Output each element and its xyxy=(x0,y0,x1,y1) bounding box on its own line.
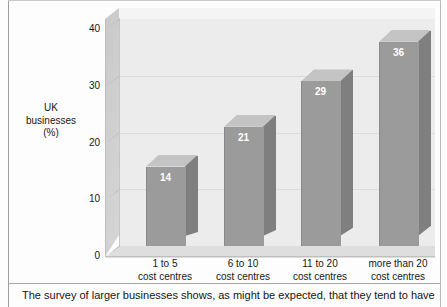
bar: 29 xyxy=(301,0,340,283)
bar-side-face xyxy=(418,31,431,236)
bar: 21 xyxy=(224,0,263,283)
x-axis-labels: 1 to 5cost centres6 to 10cost centres11 … xyxy=(0,258,447,284)
bar-value-label: 36 xyxy=(379,48,418,58)
bar-chart-figure: 403020100 UKbusinesses(%) 14212936 1 to … xyxy=(0,0,447,283)
bar-front-face xyxy=(224,127,264,246)
x-axis-category-label: 1 to 5cost centres xyxy=(122,258,208,283)
x-axis-category-line: cost centres xyxy=(277,271,363,284)
bar-value-label: 29 xyxy=(301,87,340,97)
x-axis-category-label: 6 to 10cost centres xyxy=(200,258,286,283)
x-axis-category-line: 1 to 5 xyxy=(122,258,208,271)
x-axis-category-line: cost centres xyxy=(200,271,286,284)
x-axis-category-line: cost centres xyxy=(355,271,441,284)
bar-side-face xyxy=(340,70,353,236)
x-axis-category-label: more than 20cost centres xyxy=(355,258,441,283)
x-axis-category-line: 11 to 20 xyxy=(277,258,363,271)
bar: 36 xyxy=(379,0,418,283)
bar-series: 14212936 xyxy=(0,0,447,283)
x-axis-category-line: 6 to 10 xyxy=(200,258,286,271)
bar: 14 xyxy=(146,0,185,283)
bar-side-face xyxy=(185,156,198,236)
caption-divider xyxy=(9,283,440,284)
x-axis-category-label: 11 to 20cost centres xyxy=(277,258,363,283)
bar-front-face xyxy=(379,42,419,246)
x-axis-category-line: cost centres xyxy=(122,271,208,284)
page-root: 403020100 UKbusinesses(%) 14212936 1 to … xyxy=(0,0,447,307)
caption-text: The survey of larger businesses shows, a… xyxy=(22,289,434,302)
bar-side-face xyxy=(263,116,276,236)
bar-value-label: 14 xyxy=(146,173,185,183)
bar-front-face xyxy=(301,81,341,246)
x-axis-category-line: more than 20 xyxy=(355,258,441,271)
bar-value-label: 21 xyxy=(224,133,263,143)
